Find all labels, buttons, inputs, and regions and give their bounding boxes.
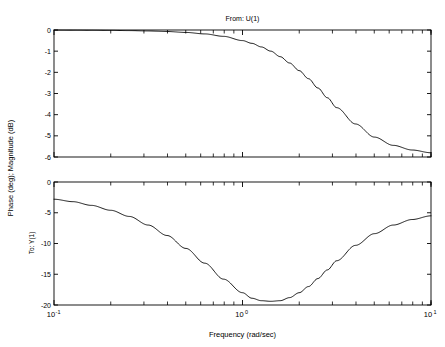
magnitude-axes: 0-1-2-3-4-5-6 (45, 27, 431, 161)
xtick-label-exponent: 1 (433, 309, 436, 315)
phase-ytick-label: -15 (41, 271, 51, 278)
magnitude-ytick-label: -1 (45, 48, 51, 55)
phase-curve (54, 199, 431, 301)
phase-ytick-label: 0 (47, 179, 51, 186)
x-axis-label: Frequency (rad/sec) (209, 330, 277, 339)
xtick-label-group: 100 (235, 309, 248, 320)
magnitude-ytick-label: -4 (45, 111, 51, 118)
xtick-label-group: 10-1 (47, 309, 61, 320)
magnitude-ytick-label: -2 (45, 69, 51, 76)
magnitude-ytick-label: 0 (47, 27, 51, 34)
xtick-label-group: 101 (424, 309, 437, 320)
xtick-label-exponent: 0 (245, 309, 248, 315)
bode-plot-svg: 0-1-2-3-4-5-60-5-10-15-2010-1100101From:… (0, 0, 445, 347)
xtick-label-exponent: -1 (56, 309, 61, 315)
bode-plot-figure: 0-1-2-3-4-5-60-5-10-15-2010-1100101From:… (0, 0, 445, 347)
xtick-label-mantissa: 10 (424, 310, 432, 319)
xtick-label-mantissa: 10 (47, 310, 55, 319)
magnitude-curve (54, 30, 431, 153)
plot-title: From: U(1) (226, 15, 260, 23)
magnitude-box (54, 30, 431, 157)
magnitude-ytick-label: -5 (45, 132, 51, 139)
magnitude-ytick-label: -3 (45, 90, 51, 97)
magnitude-ytick-label: -6 (45, 154, 51, 161)
phase-ytick-label: -10 (41, 240, 51, 247)
magnitude-frame (54, 30, 431, 157)
xtick-label-mantissa: 10 (235, 310, 243, 319)
phase-axes: 0-5-10-15-20 (41, 179, 431, 309)
y-axis-label: Phase (deg); Magnitude (dB) (6, 119, 15, 216)
phase-ytick-label: -5 (45, 209, 51, 216)
row-output-label: To: Y(1) (28, 232, 36, 255)
phase-frame (54, 182, 431, 305)
phase-ytick-label: -20 (41, 302, 51, 309)
phase-box (54, 182, 431, 305)
